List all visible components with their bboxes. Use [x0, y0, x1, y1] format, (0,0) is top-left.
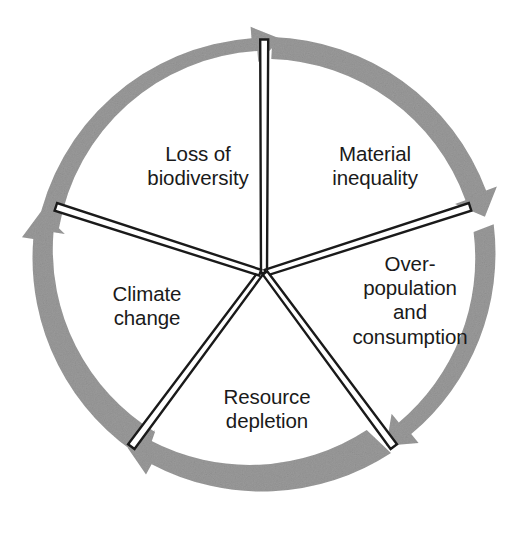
segment-label-climate-change: Climate change — [72, 282, 222, 330]
arrow-segment-loss-of-biodiversity — [37, 27, 281, 229]
segment-label-loss-of-biodiversity: Loss of biodiversity — [118, 142, 278, 190]
cycle-diagram: Loss of biodiversity Material inequality… — [0, 0, 523, 543]
segment-label-material-inequality: Material inequality — [300, 142, 450, 190]
arrow-segment-resource-depletion — [128, 430, 391, 492]
arrow-segment-climate-change — [22, 211, 155, 459]
spoke-divider-left — [55, 203, 262, 276]
segment-label-overpopulation-and-consumption: Over- population and consumption — [330, 252, 490, 349]
segment-label-resource-depletion: Resource depletion — [182, 385, 352, 433]
